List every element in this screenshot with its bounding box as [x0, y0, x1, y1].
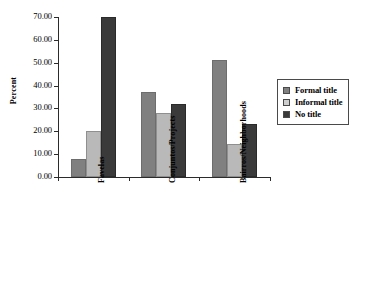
legend-label-formal-title: Formal title [295, 85, 337, 95]
bar-group [129, 17, 200, 177]
y-tick-label: 40.00 [12, 80, 52, 90]
legend-swatch-informal-title [283, 99, 290, 106]
x-tick-mark [129, 177, 130, 181]
y-tick-label: 60.00 [12, 34, 52, 44]
legend-swatch-formal-title [283, 87, 290, 94]
x-category-label: Bairros/Neighborhoods [239, 101, 248, 183]
x-category-label: Conjuntos/Projects [168, 116, 177, 183]
legend-item-formal-title: Formal title [283, 84, 342, 96]
legend-item-informal-title: Informal title [283, 96, 342, 108]
y-tick-label: 20.00 [12, 125, 52, 135]
legend-label-no-title: No title [295, 109, 321, 119]
bar-group [58, 17, 129, 177]
legend-item-no-title: No title [283, 108, 342, 120]
y-tick-label: 10.00 [12, 148, 52, 158]
bar-group [199, 17, 270, 177]
x-category-label: Favelas [97, 157, 106, 183]
bar [71, 159, 86, 177]
y-tick-label: 50.00 [12, 57, 52, 67]
bar [212, 60, 227, 177]
y-tick-label: 0.00 [12, 171, 52, 181]
x-tick-mark [270, 177, 271, 181]
x-tick-mark [199, 177, 200, 181]
bar-chart-figure: Percent 0.0010.0020.0030.0040.0050.0060.… [0, 0, 366, 283]
y-tick-label: 30.00 [12, 102, 52, 112]
bar [141, 92, 156, 177]
legend-label-informal-title: Informal title [295, 97, 342, 107]
y-tick-label: 70.00 [12, 11, 52, 21]
legend-swatch-no-title [283, 111, 290, 118]
bar [101, 17, 116, 177]
x-tick-mark [58, 177, 59, 181]
chart-legend: Formal title Informal title No title [277, 79, 349, 125]
